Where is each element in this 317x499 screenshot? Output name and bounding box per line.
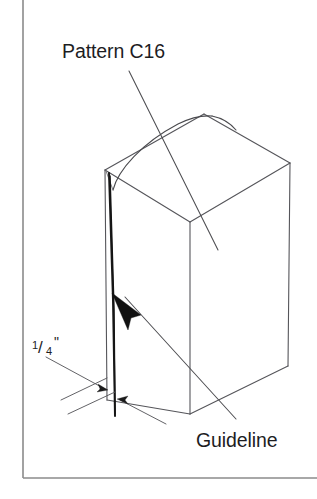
inch-mark: " (54, 334, 59, 350)
technical-drawing-canvas: Pattern C16 Guideline 1 / 4 " (0, 0, 317, 499)
pattern-label: Pattern C16 (62, 40, 165, 62)
fraction-denominator: 4 (46, 345, 52, 357)
fraction-slash: / (38, 338, 43, 357)
guideline-label: Guideline (196, 429, 278, 451)
figure-root: Pattern C16 Guideline 1 / 4 " (0, 0, 317, 499)
page-background (0, 0, 317, 499)
